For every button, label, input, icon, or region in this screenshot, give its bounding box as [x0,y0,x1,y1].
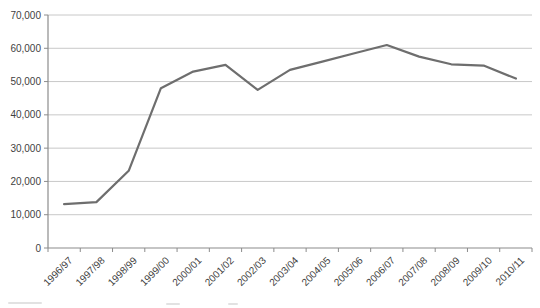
x-axis-category-label: 2007/08 [396,254,430,288]
line-chart: 010,00020,00030,00040,00050,00060,00070,… [0,0,540,308]
x-axis-category-label: 2006/07 [364,254,398,288]
x-axis-category-label: 2002/03 [235,254,269,288]
x-axis-category-label: 2009/10 [461,254,495,288]
x-axis-category-label: 1998/99 [106,254,140,288]
cropped-caption-remnant [166,303,180,305]
y-axis-tick-label: 40,000 [10,109,41,120]
x-axis-category-label: 2003/04 [267,254,301,288]
cropped-caption-remnant [228,303,238,305]
y-axis-tick-label: 60,000 [10,43,41,54]
line-chart-figure: 010,00020,00030,00040,00050,00060,00070,… [0,0,540,308]
data-series-line [64,45,516,204]
y-axis-tick-label: 20,000 [10,176,41,187]
x-axis-category-label: 1999/00 [138,254,172,288]
x-axis-category-label: 2000/01 [170,254,204,288]
x-axis-category-label: 2010/11 [493,254,526,287]
x-axis-category-label: 2001/02 [203,254,237,288]
x-axis-category-label: 1996/97 [41,254,75,288]
y-axis-tick-label: 50,000 [10,76,41,87]
y-axis-tick-label: 70,000 [10,10,41,21]
y-axis-tick-label: 10,000 [10,209,41,220]
y-axis-tick-label: 0 [35,243,41,254]
x-axis-category-label: 2004/05 [299,254,333,288]
y-axis-tick-label: 30,000 [10,143,41,154]
cropped-caption-remnant [8,302,42,304]
x-axis-category-label: 1997/98 [73,254,107,288]
x-axis-category-label: 2005/06 [332,254,366,288]
x-axis-category-label: 2008/09 [428,254,462,288]
